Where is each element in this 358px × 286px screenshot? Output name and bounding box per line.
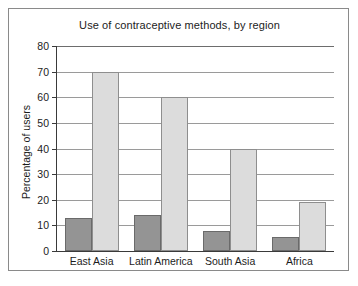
y-tick-label: 80 [37,40,49,52]
bar[interactable] [230,149,257,252]
bar[interactable] [161,97,188,251]
y-axis-label: Percentage of users [20,72,32,232]
bar[interactable] [299,202,326,251]
x-axis-category-label: South Asia [205,255,255,267]
bar[interactable] [65,218,92,251]
y-tick-mark [52,200,57,201]
y-tick-mark [52,46,57,47]
plot-area: 01020304050607080 East AsiaLatin America… [56,46,334,252]
y-tick-label: 40 [37,143,49,155]
y-tick-label: 0 [43,245,49,257]
x-axis-category-label: Africa [286,255,313,267]
chart-figure: Use of contraceptive methods, by region … [8,8,349,271]
y-tick-mark [52,251,57,252]
bar[interactable] [203,231,230,252]
y-tick-mark [52,123,57,124]
y-tick-mark [52,72,57,73]
y-tick-mark [52,225,57,226]
y-tick-label: 70 [37,66,49,78]
x-axis-category-label: Latin America [129,255,193,267]
y-tick-label: 20 [37,194,49,206]
y-tick-mark [52,149,57,150]
bar[interactable] [92,72,119,251]
chart-title: Use of contraceptive methods, by region [9,19,350,31]
x-axis-category-label: East Asia [70,255,114,267]
y-tick-label: 10 [37,219,49,231]
y-tick-label: 60 [37,91,49,103]
y-tick-mark [52,174,57,175]
gridline [57,46,334,47]
bar[interactable] [272,237,299,251]
y-tick-mark [52,97,57,98]
bar[interactable] [134,215,161,251]
y-tick-label: 30 [37,168,49,180]
y-tick-label: 50 [37,117,49,129]
